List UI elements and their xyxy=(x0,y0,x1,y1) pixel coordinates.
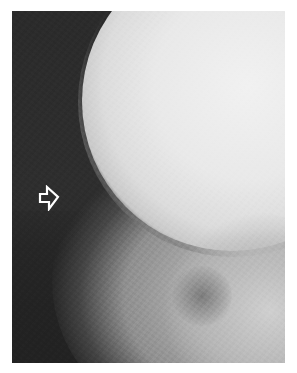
page xyxy=(0,0,297,373)
open-arrow-right-icon xyxy=(38,185,60,211)
radiograph-image xyxy=(12,11,285,363)
